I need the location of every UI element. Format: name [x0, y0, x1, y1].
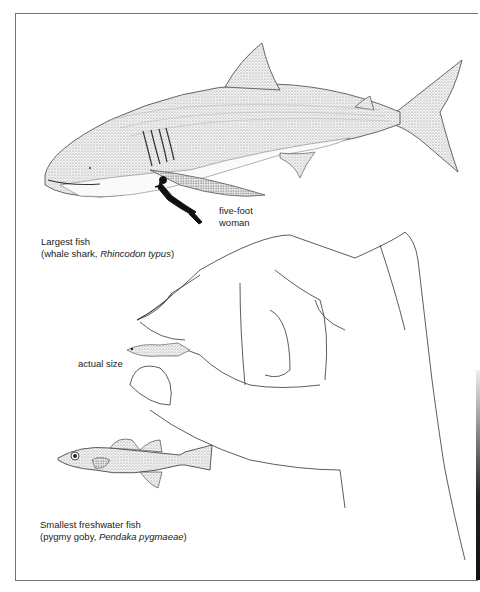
whale-shark-drawing — [45, 43, 462, 197]
diver-label: five-foot woman — [219, 205, 253, 229]
hand-drawing — [130, 232, 465, 560]
diver-label-line2: woman — [219, 217, 253, 229]
pygmy-goby-caption-species: (pygmy goby, Pendaka pygmaeae) — [40, 531, 187, 543]
pygmy-goby-caption: Smallest freshwater fish (pygmy goby, Pe… — [40, 519, 187, 543]
diver-label-line1: five-foot — [219, 205, 253, 217]
pygmy-goby-drawing — [58, 439, 212, 488]
whale-shark-caption: Largest fish (whale shark, Rhincodon typ… — [41, 236, 174, 260]
whale-shark-caption-title: Largest fish — [41, 236, 174, 248]
whale-shark-caption-species: (whale shark, Rhincodon typus) — [41, 248, 174, 260]
actual-size-goby-drawing — [127, 343, 190, 356]
pygmy-goby-caption-title: Smallest freshwater fish — [40, 519, 187, 531]
whale-shark-scientific-name: Rhincodon typus — [100, 248, 171, 259]
pygmy-goby-scientific-name: Pendaka pygmaeae — [99, 531, 184, 542]
illustration-artwork — [0, 0, 480, 592]
actual-size-label: actual size — [78, 358, 123, 370]
